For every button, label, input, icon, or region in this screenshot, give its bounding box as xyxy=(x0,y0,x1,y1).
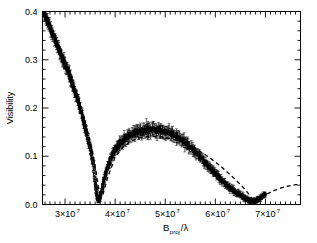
x-axis-label-tail: /λ xyxy=(181,222,189,233)
visibility-figure: 0.00.10.20.30.43×1074×1075×1076×1077×107… xyxy=(0,0,317,243)
x-tick-label-mantissa: 3×10 xyxy=(55,209,75,219)
x-tick-label-mantissa: 5×10 xyxy=(155,209,175,219)
y-tick-label: 0.0 xyxy=(25,200,38,210)
y-tick-label: 0.1 xyxy=(25,151,38,161)
x-tick-label: 7×107 xyxy=(255,208,280,219)
x-tick-label: 4×107 xyxy=(105,208,130,219)
x-tick-label-exponent: 7 xyxy=(126,208,130,214)
plot-canvas: 0.00.10.20.30.43×1074×1075×1076×1077×107… xyxy=(0,0,317,243)
error-bars-group xyxy=(42,6,267,205)
x-tick-label: 5×107 xyxy=(155,208,180,219)
data-points-group xyxy=(42,9,266,204)
x-tick-label: 6×107 xyxy=(205,208,230,219)
x-tick-label-mantissa: 6×10 xyxy=(205,209,225,219)
x-tick-label: 3×107 xyxy=(55,208,80,219)
x-tick-label-exponent: 7 xyxy=(76,208,80,214)
x-axis-label-base: B xyxy=(163,222,169,233)
x-tick-label-mantissa: 7×10 xyxy=(255,209,275,219)
data-point xyxy=(43,9,45,11)
y-tick-label: 0.4 xyxy=(25,7,38,17)
x-tick-label-exponent: 7 xyxy=(277,208,281,214)
series-measured-visibility xyxy=(42,6,267,205)
y-tick-label: 0.2 xyxy=(25,103,38,113)
y-axis-label: Visibility xyxy=(5,91,15,124)
x-axis-label: Bproj/λ xyxy=(163,222,188,235)
x-axis-label-subscript: proj xyxy=(170,229,180,235)
x-tick-label-exponent: 7 xyxy=(227,208,231,214)
y-tick-label: 0.3 xyxy=(25,55,38,65)
x-tick-label-exponent: 7 xyxy=(177,208,181,214)
x-tick-label-mantissa: 4×10 xyxy=(105,209,125,219)
